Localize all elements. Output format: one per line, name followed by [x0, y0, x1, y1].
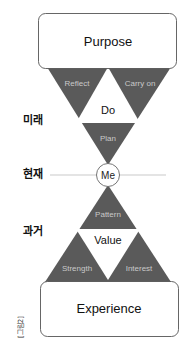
present-time-label: 현재: [23, 169, 43, 181]
do-label: Do: [101, 104, 115, 116]
figure-caption: [그림2]: [15, 309, 25, 345]
plan-label: Plan: [100, 134, 116, 143]
interest-label: Interest: [126, 264, 153, 273]
reflect-label: Reflect: [65, 79, 91, 88]
value-label: Value: [94, 234, 121, 246]
past-time-label: 과거: [23, 226, 43, 238]
experience-label: Experience: [76, 301, 141, 316]
strength-label: Strength: [62, 264, 92, 273]
carry-on-label: Carry on: [125, 79, 156, 88]
pattern-label: Pattern: [95, 210, 121, 219]
purpose-label: Purpose: [84, 34, 132, 49]
me-label: Me: [101, 170, 115, 181]
future-time-label: 미래: [23, 115, 43, 127]
